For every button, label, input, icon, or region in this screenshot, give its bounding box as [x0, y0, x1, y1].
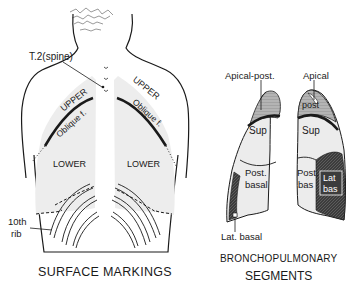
- sup-right-label: Sup: [302, 125, 320, 136]
- anatomy-diagram: T.2(spine) UPPER UPPER Oblique f. Obliqu…: [0, 0, 350, 289]
- rib-label-line1: 10th: [8, 216, 27, 227]
- lat-bas-label-line2: bas: [323, 184, 338, 194]
- post-bas-label-line1: Post.: [297, 167, 319, 178]
- bronchopulmonary-title-line1: BRONCHOPULMONARY: [220, 253, 338, 264]
- left-lung-segments: [227, 80, 281, 232]
- bronchopulmonary-title-line2: SEGMENTS: [245, 269, 312, 283]
- t2-spine-point: [102, 86, 105, 89]
- post-basal-label-line1: Post.: [245, 167, 267, 178]
- bronchopulmonary-figure: Apical-post. Apical post Sup Sup Post. b…: [220, 70, 346, 283]
- sup-left-label: Sup: [249, 125, 267, 136]
- post-label: post: [302, 100, 320, 110]
- lower-left-label: LOWER: [53, 159, 87, 169]
- lower-right-label: LOWER: [127, 159, 161, 169]
- lat-basal-label: Lat. basal: [221, 231, 262, 242]
- surface-markings-figure: T.2(spine) UPPER UPPER Oblique f. Obliqu…: [8, 8, 189, 279]
- apical-post-label: Apical-post.: [225, 70, 275, 81]
- surface-markings-title: SURFACE MARKINGS: [38, 265, 172, 279]
- lat-bas-label-line1: Lat: [323, 173, 336, 183]
- apical-label: Apical: [303, 70, 329, 81]
- post-bas-label-line2: bas: [298, 179, 314, 190]
- spine-label: T.2(spine): [29, 51, 73, 62]
- spine-marks: [104, 67, 108, 92]
- post-basal-label-line2: basal: [245, 179, 268, 190]
- hair-icon: [70, 8, 113, 31]
- rib-label-line2: rib: [11, 228, 22, 239]
